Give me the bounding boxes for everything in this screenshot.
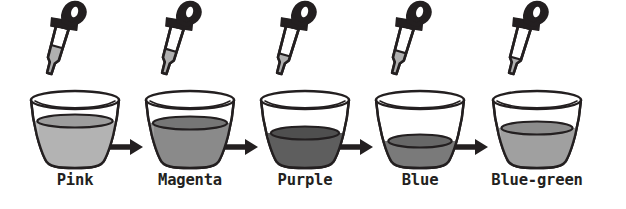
stage-label: Magenta: [131, 171, 249, 189]
right-arrow-icon: [225, 136, 259, 158]
stage-blue: Blue: [361, 0, 479, 209]
dropper-icon: [150, 0, 204, 86]
color-sequence-figure: PinkMagentaPurpleBlueBlue-green: [0, 0, 626, 209]
stage-pink: Pink: [16, 0, 134, 209]
stage-label: Pink: [16, 171, 134, 189]
stage-blue-green: Blue-green: [478, 0, 596, 209]
right-arrow-icon: [340, 136, 374, 158]
liquid-surface: [388, 135, 451, 148]
arrow-shape: [455, 139, 488, 155]
right-arrow-icon: [110, 136, 144, 158]
arrow-shape: [340, 139, 373, 155]
beaker: [369, 91, 471, 177]
stage-artwork: [478, 0, 596, 172]
dropper-tube: [505, 25, 531, 75]
beaker-rim: [146, 91, 234, 109]
stage-label: Blue: [361, 171, 479, 189]
dropper-icon: [265, 0, 319, 86]
beaker-rim: [493, 91, 581, 109]
stage-label: Purple: [246, 171, 364, 189]
arrow-shape: [225, 139, 258, 155]
dropper-tube: [273, 25, 299, 75]
beaker-rim: [376, 91, 464, 109]
beaker-rim: [261, 91, 349, 109]
beaker-rim: [31, 91, 119, 109]
dropper-icon: [35, 0, 89, 86]
beaker: [254, 91, 356, 177]
dropper-tube: [388, 25, 414, 75]
stage-label: Blue-green: [478, 171, 596, 189]
dropper-icon: [380, 0, 434, 86]
liquid-surface: [501, 122, 572, 135]
liquid-surface: [153, 117, 227, 130]
liquid-surface: [271, 127, 339, 140]
stage-magenta: Magenta: [131, 0, 249, 209]
dropper-icon: [497, 0, 551, 86]
right-arrow-icon: [455, 136, 489, 158]
beaker: [24, 91, 126, 177]
liquid-surface: [37, 115, 112, 128]
beaker: [139, 91, 241, 177]
stage-purple: Purple: [246, 0, 364, 209]
arrow-shape: [110, 139, 143, 155]
beaker: [486, 91, 588, 177]
